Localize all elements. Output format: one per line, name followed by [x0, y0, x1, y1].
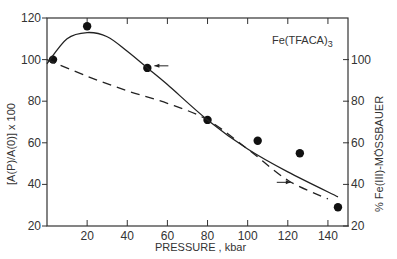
right-y-tick-label: 20: [351, 219, 365, 233]
right-y-tick-label: 80: [351, 94, 365, 108]
right-y-tick-label: 100: [351, 53, 371, 67]
y-tick-label: 100: [21, 53, 41, 67]
data-point: [83, 22, 91, 30]
annotation-compound: Fe(TFACA)3: [272, 34, 333, 49]
series-arrows: [154, 64, 290, 184]
left-y-axis-ticks: 20406080100120: [21, 11, 47, 233]
x-tick-label: 140: [318, 229, 338, 243]
arrowhead-icon: [154, 64, 159, 68]
right-y-axis-label: % Fe(III)-MÖSSBAUER: [373, 96, 385, 212]
plot-border: [47, 18, 348, 226]
data-point: [334, 203, 342, 211]
right-y-tick-label: 40: [351, 177, 365, 191]
y-tick-label: 20: [28, 219, 42, 233]
mossbauer-dashed-line: [47, 60, 328, 199]
data-series: [47, 22, 342, 211]
left-y-axis-label: [A(P)/A(0)] x 100: [5, 103, 17, 185]
x-tick-label: 40: [121, 229, 135, 243]
data-point: [254, 137, 262, 145]
fit-solid-line: [47, 33, 338, 197]
x-axis-ticks: 20406080100120140: [80, 18, 338, 243]
plot-frame: [47, 18, 348, 226]
y-tick-label: 60: [28, 136, 42, 150]
data-point: [296, 149, 304, 157]
chart: 20406080100120140 20406080100120 2040608…: [0, 0, 397, 259]
right-y-axis-ticks: 20406080100: [343, 53, 371, 233]
y-tick-label: 40: [28, 177, 42, 191]
y-tick-label: 120: [21, 11, 41, 25]
x-tick-label: 20: [80, 229, 94, 243]
x-tick-label: 120: [278, 229, 298, 243]
x-axis-label: PRESSURE , kbar: [155, 241, 246, 253]
right-y-tick-label: 60: [351, 136, 365, 150]
y-tick-label: 80: [28, 94, 42, 108]
